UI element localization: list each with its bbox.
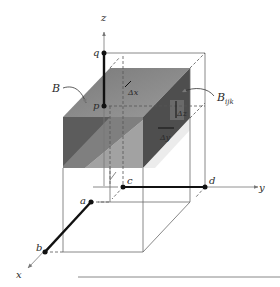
label-q: q [93,47,99,58]
point-q [102,51,107,56]
label-a: a [80,195,86,206]
x-axis-label: x [16,269,22,280]
label-B: B [51,82,60,95]
point-p [102,104,107,109]
label-delta-y: Δy [159,133,171,142]
point-d [203,185,208,190]
label-b: b [36,242,42,253]
label-delta-z: Δz [176,109,188,118]
point-b [43,250,48,255]
point-a [89,200,94,205]
label-Bijk: Bijk [216,91,234,106]
label-p: p [93,100,100,111]
z-axis-label: z [100,12,107,23]
point-c [121,185,126,190]
label-d: d [209,175,215,186]
box-diagram: z y x q p a b c d B Bijk Δx Δy Δz [0,0,280,287]
label-delta-x: Δx [127,88,139,97]
label-c: c [127,175,133,186]
y-axis-label: y [258,182,265,193]
segment-ab [45,202,91,252]
